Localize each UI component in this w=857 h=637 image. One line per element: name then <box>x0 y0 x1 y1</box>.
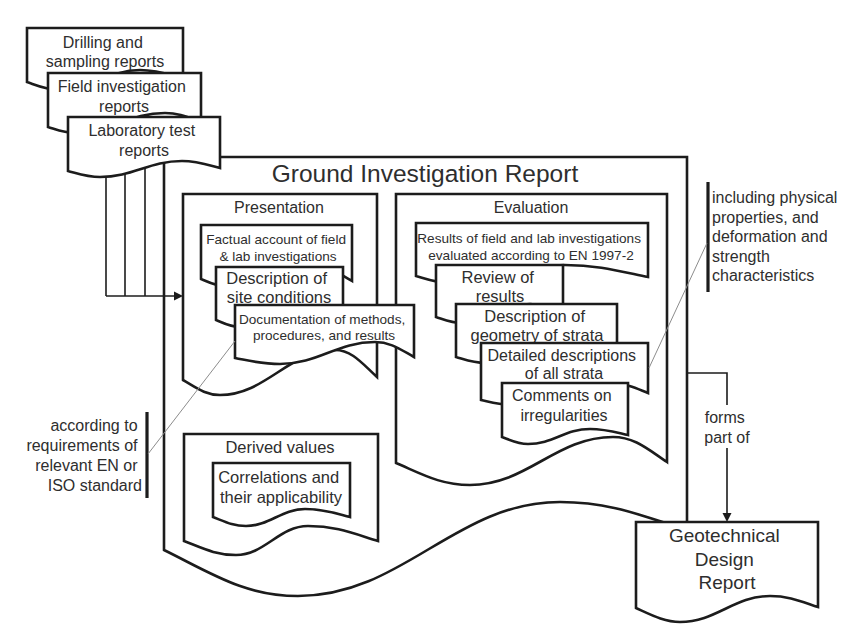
label-line: evaluated according to EN 1997-2 <box>428 248 634 263</box>
report-title: Ground Investigation Report <box>272 160 579 187</box>
label-line: Field investigation <box>58 78 186 95</box>
document-label: Description of geometry of strata <box>471 307 605 344</box>
label-line: reports <box>99 98 149 115</box>
label-line: Comments on <box>512 387 612 404</box>
label-line: reports <box>119 142 169 159</box>
label-line: forms <box>705 409 745 426</box>
evaluation-heading: Evaluation <box>494 199 569 216</box>
label-line: characteristics <box>712 267 814 284</box>
forms-part-of-connector: forms part of <box>687 373 750 522</box>
label-line: Review of <box>461 268 534 286</box>
arrow-down-icon <box>723 513 732 522</box>
label-line: Detailed descriptions <box>488 347 637 364</box>
derived-values-heading: Derived values <box>225 438 334 456</box>
note-text: according to requirements of relevant EN… <box>26 417 142 494</box>
label-line: Drilling and <box>63 34 143 51</box>
label-line: procedures, and results <box>253 328 395 343</box>
label-line: Correlations and <box>218 468 339 486</box>
label-line: ISO standard <box>48 477 142 494</box>
label-line: Laboratory test <box>88 122 195 139</box>
label-line: according to <box>50 417 137 434</box>
label-line: Geotechnical <box>669 525 780 546</box>
geotechnical-design-report: Geotechnical Design Report <box>636 522 818 622</box>
label-line: Design <box>695 549 754 570</box>
label-line: their applicability <box>220 488 343 506</box>
label-line: properties, and <box>712 209 819 226</box>
label-line: Results of field and lab investigations <box>417 231 641 246</box>
label-line: Report <box>698 572 756 593</box>
connector-line <box>687 373 727 405</box>
label-line: site conditions <box>227 288 332 306</box>
connector-label: forms part of <box>704 409 750 446</box>
note-text: including physical properties, and defor… <box>712 189 842 284</box>
label-line: including physical <box>712 189 837 206</box>
label-line: geometry of strata <box>471 326 605 344</box>
label-line: sampling reports <box>46 53 164 70</box>
label-line: deformation and <box>712 228 828 245</box>
label-line: relevant EN or <box>35 457 138 474</box>
label-line: & lab investigations <box>219 249 336 264</box>
label-line: Documentation of methods, <box>239 312 405 327</box>
label-line: irregularities <box>520 407 607 424</box>
label-line: strength <box>712 248 770 265</box>
label-line: requirements of <box>26 437 138 454</box>
document-label: Documentation of methods, procedures, an… <box>239 312 409 343</box>
label-line: Factual account of field <box>206 232 346 247</box>
label-line: Description of <box>226 269 327 287</box>
presentation-heading: Presentation <box>234 199 324 216</box>
ground-investigation-diagram: Drilling and sampling reports Field inve… <box>0 0 857 637</box>
document-label: Description of site conditions <box>226 269 331 306</box>
label-line: results <box>476 287 525 305</box>
label-line: of all strata <box>525 365 603 382</box>
label-line: part of <box>704 429 750 446</box>
label-line: Description of <box>484 307 585 325</box>
